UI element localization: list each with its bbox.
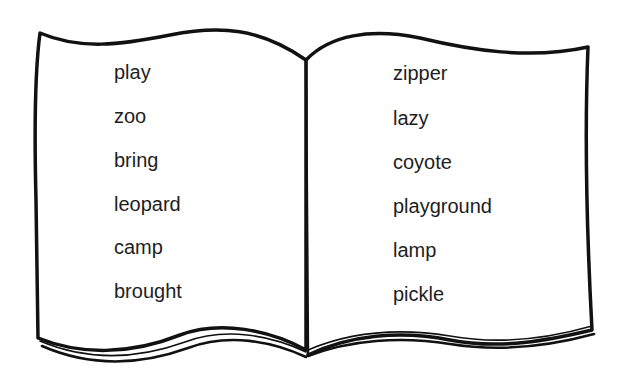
word-item: playground [393,196,492,216]
word-item: zipper [393,63,447,83]
open-book-illustration [0,0,628,386]
word-item: lamp [393,240,436,260]
word-item: brought [114,281,182,301]
word-item: leopard [114,194,181,214]
word-item: pickle [393,284,444,304]
word-item: zoo [114,106,146,126]
left-page-outline [35,30,306,350]
word-item: coyote [393,152,452,172]
word-item: camp [114,237,163,257]
word-item: bring [114,150,158,170]
word-item: play [114,62,151,82]
word-item: lazy [393,108,429,128]
